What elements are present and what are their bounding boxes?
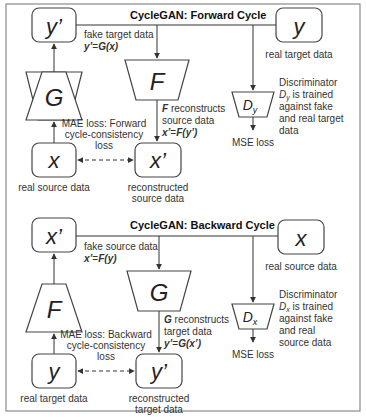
node-y-prime-label: y’ — [149, 359, 168, 384]
fake-source-formula: x’=F(y) — [83, 253, 117, 264]
node-G-label: G — [150, 279, 169, 306]
recon-target-line1: reconstructed — [129, 393, 190, 404]
mae-line2: cycle-consistency — [67, 340, 145, 351]
G-recon-formula: y’=G(x’) — [163, 338, 202, 349]
disc-line4: and real — [279, 325, 315, 336]
fake-target-formula: y’=G(x) — [83, 41, 119, 52]
disc-line1: Discriminator — [279, 289, 338, 300]
recon-source-line1: reconstructed — [128, 182, 189, 193]
F-recon-formula: x’=F(y’) — [161, 127, 198, 138]
real-source-label: real source data — [18, 182, 90, 193]
forward-title: CycleGAN: Forward Cycle — [130, 9, 266, 21]
cyclegan-diagram: CycleGAN: Forward Cycle y’ G x real sour… — [0, 0, 366, 417]
recon-target-line2: target data — [135, 404, 183, 415]
disc-line3: against fake — [279, 313, 333, 324]
mse-loss-label: MSE loss — [232, 137, 274, 148]
disc-line1: Discriminator — [279, 77, 338, 88]
node-x-label: x — [48, 148, 61, 173]
node-y-label: y — [292, 14, 307, 39]
fake-target-label: fake target data — [84, 29, 154, 40]
real-target-label: real target data — [20, 393, 88, 404]
real-source-label: real source data — [265, 261, 337, 272]
node-F-label: F — [47, 296, 63, 323]
mae-line3: loss — [97, 351, 115, 362]
node-y-prime-label: y’ — [44, 14, 63, 39]
node-F-label: F — [150, 68, 166, 95]
mae-line1: MAE loss: Backward — [60, 329, 152, 340]
G-recon-line1: G reconstructs — [164, 314, 229, 325]
G-recon-line2: target data — [164, 326, 212, 337]
disc-line4: and real target — [279, 113, 344, 124]
node-x-label: x — [295, 226, 308, 251]
node-x-prime-label: x’ — [149, 148, 167, 173]
node-G-label: G — [45, 84, 64, 111]
mae-line2: cycle-consistency — [65, 129, 143, 140]
node-y-label: y — [47, 359, 62, 384]
backward-title: CycleGAN: Backward Cycle — [130, 219, 275, 231]
disc-line3: against fake — [279, 101, 333, 112]
disc-line5: source data — [279, 337, 332, 348]
fake-source-label: fake source data — [84, 241, 158, 252]
mse-loss-label: MSE loss — [232, 349, 274, 360]
real-target-label: real target data — [265, 49, 333, 60]
disc-line5: data — [279, 125, 299, 136]
mae-line3: loss — [95, 140, 113, 151]
node-x-prime-label: x’ — [45, 224, 63, 249]
mae-line1: MAE loss: Forward — [62, 118, 146, 129]
F-recon-line1: F reconstructs — [162, 103, 225, 114]
F-recon-line2: source data — [162, 115, 215, 126]
recon-source-line2: source data — [132, 193, 185, 204]
